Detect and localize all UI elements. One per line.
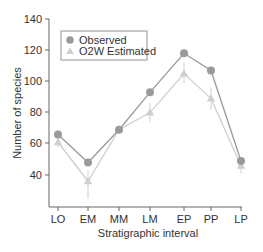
y-ticks: 140 120 100 80 60 40 <box>24 13 49 181</box>
y-tick-label: 60 <box>30 137 42 149</box>
data-point-circle <box>115 126 123 134</box>
series-layer <box>54 49 245 198</box>
data-point-circle <box>146 88 154 96</box>
data-point-circle <box>84 159 92 167</box>
x-tick-label: EM <box>80 213 97 225</box>
data-point-triangle <box>54 138 62 146</box>
series-o2w-estimated <box>54 63 245 199</box>
observed-marker-icon <box>66 36 74 44</box>
x-tick-label: LM <box>142 213 157 225</box>
x-tick-label: LO <box>51 213 66 225</box>
x-tick-label: PP <box>204 213 219 225</box>
y-axis-title: Number of species <box>11 67 23 159</box>
legend: Observed O2W Estimated <box>61 31 156 60</box>
data-point-circle <box>180 49 188 57</box>
y-tick-label: 120 <box>24 44 42 56</box>
chart: 140 120 100 80 60 40 LO EM MM LM EP PP L… <box>0 0 263 252</box>
x-tick-label: EP <box>177 213 192 225</box>
x-axis-title: Stratigraphic interval <box>98 227 198 239</box>
legend-label-estimated: O2W Estimated <box>79 45 156 57</box>
data-point-circle <box>54 130 62 138</box>
x-ticks: LO EM MM LM EP PP LP <box>51 207 248 225</box>
y-tick-label: 80 <box>30 106 42 118</box>
x-tick-label: MM <box>110 213 128 225</box>
y-tick-label: 100 <box>24 75 42 87</box>
line-chart: 140 120 100 80 60 40 LO EM MM LM EP PP L… <box>0 0 263 252</box>
y-tick-label: 140 <box>24 13 42 25</box>
y-tick-label: 40 <box>30 169 42 181</box>
data-point-circle <box>207 66 215 74</box>
data-point-circle <box>237 157 245 165</box>
x-tick-label: LP <box>234 213 247 225</box>
data-point-triangle <box>180 69 188 77</box>
